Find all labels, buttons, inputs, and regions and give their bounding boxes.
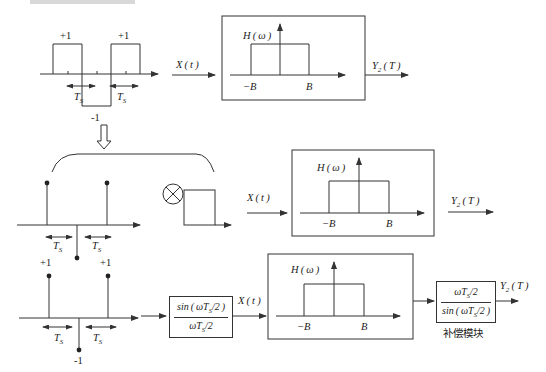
row2-neg-b: −B (322, 219, 336, 230)
row2-filter-box (292, 150, 434, 236)
row3-input-label: X ( t ) (238, 296, 261, 307)
row3-filter-box (268, 254, 413, 339)
row1-plus-one-right: +1 (118, 31, 129, 42)
grouping-brace (52, 154, 214, 172)
row3-pos-b: B (361, 322, 367, 333)
row3-impulse-train (19, 276, 138, 350)
row3-filter-title: H ( ω ) (291, 265, 319, 276)
row3-output-label: Y2 ( T ) (500, 281, 528, 294)
row3-ts-right: TS (93, 333, 102, 346)
row2-impulse-train (17, 183, 140, 258)
row1-input-label: X ( t ) (176, 60, 199, 71)
row3-minus-one: -1 (74, 356, 83, 367)
row2-ts-left: TS (53, 241, 62, 254)
sinc-block: sin ( ωTS/2 ) ωTS/2 (169, 296, 233, 338)
row2-output-label: Y2 ( T ) (451, 196, 479, 209)
row2-plus-one-left: +1 (40, 258, 51, 269)
hollow-down-arrow-icon (97, 125, 111, 149)
row3-neg-b: −B (297, 322, 311, 333)
row2-ts-right: TS (92, 241, 101, 254)
row2-input-label: X ( t ) (247, 193, 270, 204)
row2-plus-one-right: +1 (100, 258, 111, 269)
rect-pulse-shape (184, 190, 215, 225)
compensation-caption: 补偿模块 (443, 328, 483, 339)
row1-ts-left: TS (74, 92, 83, 105)
row1-plus-one-left: +1 (60, 31, 71, 42)
row2-pos-b: B (386, 219, 392, 230)
row3-ts-left: TS (54, 333, 63, 346)
row1-filter-title: H ( ω ) (243, 31, 271, 42)
convolution-otimes-icon (163, 184, 183, 204)
compensation-block: ωTS/2 sin ( ωTS/2 ) (436, 281, 496, 323)
row1-pos-b: B (306, 82, 312, 93)
row1-ts-right: TS (117, 92, 126, 105)
row2-filter-title: H ( ω ) (317, 163, 345, 174)
row1-output-label: Y2 ( T ) (372, 61, 400, 74)
row1-neg-b: −B (243, 82, 257, 93)
row1-minus-one: -1 (91, 113, 100, 124)
row1-waveform (40, 44, 158, 106)
